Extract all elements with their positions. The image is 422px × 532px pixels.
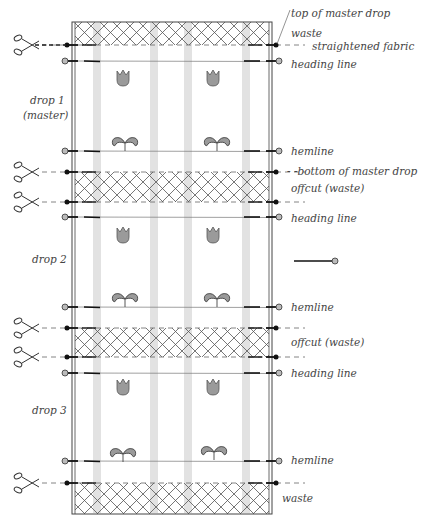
label-bottom-of-master-drop: - -bottom of master drop [287, 166, 417, 177]
label-heading-line: heading line [291, 368, 357, 379]
sprout-motif-icon [204, 294, 229, 307]
tack-mark [84, 461, 100, 462]
pin-head-icon [62, 458, 68, 464]
label-waste: waste [291, 28, 322, 39]
fabric-stripe [242, 23, 250, 513]
offcut-2-zone [75, 328, 269, 357]
pin-head-icon [62, 304, 68, 310]
leader-line [277, 10, 290, 44]
label-hemline: hemline [291, 302, 334, 313]
pin-head-icon [62, 370, 68, 376]
scissors-icon [13, 472, 39, 494]
label-drop-1: drop 1 [30, 95, 65, 106]
tack-mark [84, 307, 100, 308]
heading-line [72, 217, 272, 218]
tulip-motif-icon [117, 379, 129, 395]
loose-pin-icon [332, 258, 338, 264]
sprout-motif-icon [201, 447, 226, 460]
hem-line [72, 461, 272, 462]
scissors-icon [13, 161, 39, 183]
pattern-motifs [110, 70, 229, 462]
tack-mark [84, 373, 100, 374]
pin-head-icon [276, 458, 282, 464]
fabric-stripe [150, 23, 158, 513]
label-hemline: hemline [291, 455, 334, 466]
offcut-1-zone [75, 172, 269, 202]
scissors-icon [13, 317, 39, 339]
hem-line [72, 151, 272, 152]
scissors-icon [13, 346, 39, 368]
pin-head-icon [276, 214, 282, 220]
waste-hatching [75, 22, 269, 514]
fabric-stripes [93, 23, 250, 513]
tulip-motif-icon [207, 70, 219, 86]
sprout-motif-icon [204, 138, 229, 151]
label-straightened-fabric: straightened fabric [312, 41, 414, 52]
tack-mark [84, 151, 100, 152]
fabric-stripe [93, 23, 101, 513]
pin-head-icon [62, 148, 68, 154]
label-waste: waste [282, 493, 313, 504]
label-drop-2: drop 2 [32, 254, 67, 265]
bottom-waste-zone [75, 483, 269, 514]
sprout-motif-icon [110, 449, 135, 462]
label-top-of-master-drop: top of master drop [291, 8, 390, 19]
label-heading-line: heading line [291, 59, 357, 70]
label-drop-3: drop 3 [32, 405, 67, 416]
label-heading-line: heading line [291, 213, 357, 224]
label-offcut-waste: offcut (waste) [291, 183, 364, 194]
tulip-motif-icon [207, 379, 219, 395]
pin-head-icon [62, 214, 68, 220]
label-master: (master) [23, 110, 68, 121]
tulip-motif-icon [117, 70, 129, 86]
cut-lines [35, 43, 305, 486]
label-hemline: hemline [291, 146, 334, 157]
tack-mark [84, 61, 100, 62]
tulip-motif-icon [117, 227, 129, 243]
sprout-motif-icon [112, 138, 137, 151]
pin-head-icon [276, 304, 282, 310]
fabric-stripe [184, 23, 192, 513]
curtain-drop-cutting-diagram [0, 0, 422, 532]
label-offcut-waste: offcut (waste) [291, 337, 364, 348]
heading-line [72, 61, 272, 62]
pin-head-icon [276, 58, 282, 64]
heading-line [72, 373, 272, 374]
pin-head-icon [62, 58, 68, 64]
pin-head-icon [276, 148, 282, 154]
tack-mark [84, 217, 100, 218]
top-waste-zone [75, 22, 269, 45]
pin-head-icon [276, 370, 282, 376]
hem-line [72, 307, 272, 308]
scissors-icon [13, 191, 39, 213]
sprout-motif-icon [112, 294, 137, 307]
tulip-motif-icon [207, 227, 219, 243]
